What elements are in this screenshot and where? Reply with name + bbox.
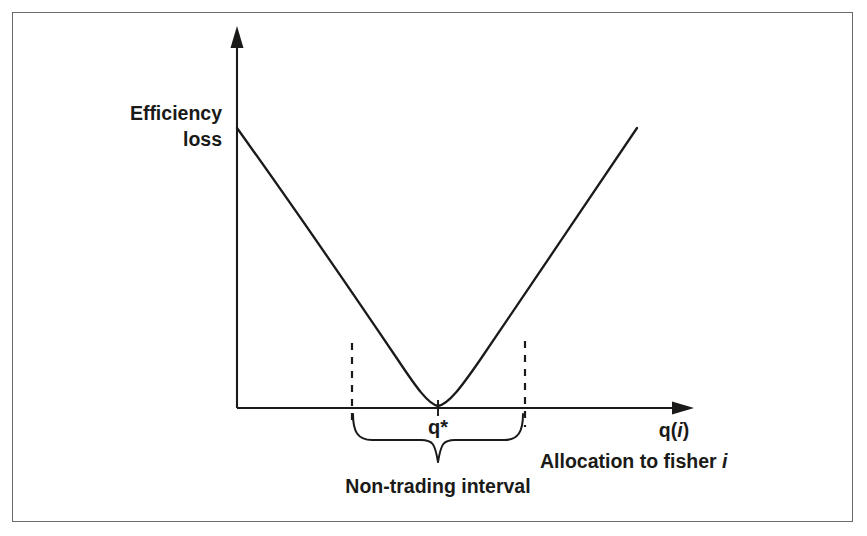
- y-axis-label-line1: Efficiency: [130, 102, 222, 124]
- efficiency-loss-diagram: Efficiency loss q(i) q* Allocation to fi…: [0, 0, 867, 536]
- x-axis-caption-prefix: Allocation to fisher: [540, 450, 722, 472]
- non-trading-interval-label: Non-trading interval: [345, 475, 530, 497]
- x-axis-label: q(i): [659, 419, 689, 441]
- x-axis-caption-italic-i: i: [722, 450, 728, 472]
- figure-page: Efficiency loss q(i) q* Allocation to fi…: [0, 0, 867, 536]
- x-axis-arrow-icon: [672, 402, 694, 415]
- x-axis-caption: Allocation to fisher i: [540, 450, 728, 472]
- efficiency-loss-curve: [237, 128, 637, 406]
- optimum-label: q*: [428, 416, 448, 438]
- x-axis-label-suffix: ): [683, 419, 690, 441]
- y-axis-arrow-icon: [231, 26, 244, 48]
- x-axis-label-prefix: q(: [659, 419, 678, 441]
- y-axis-label-line2: loss: [183, 128, 222, 150]
